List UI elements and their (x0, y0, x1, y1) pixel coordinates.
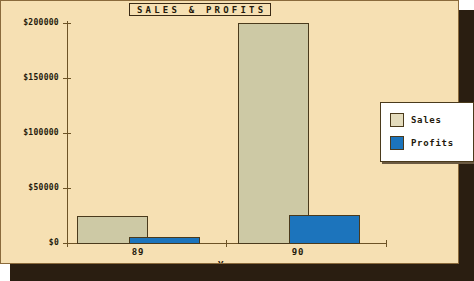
profits-swatch-icon (390, 136, 404, 150)
legend-item-profits: Profits (390, 136, 454, 150)
x-tick-label-90: 90 (278, 248, 318, 257)
sales-swatch-icon (390, 113, 404, 127)
y-tick-label-100000: $100000 (1, 129, 59, 137)
x-tick-end (386, 240, 387, 247)
bar-sales-90 (238, 23, 309, 244)
y-tick-label-0: $0 (1, 239, 59, 247)
y-tick-label-200000: $200000 (1, 19, 59, 27)
bar-profits-89 (129, 237, 200, 244)
y-tick-150000 (63, 78, 71, 79)
y-tick-50000 (63, 188, 71, 189)
legend-item-sales: Sales (390, 113, 442, 127)
y-tick-100000 (63, 133, 71, 134)
legend-label-sales: Sales (411, 115, 442, 125)
bar-profits-90 (289, 215, 360, 244)
legend-label-profits: Profits (411, 138, 454, 148)
x-axis-title: Year (1, 260, 459, 264)
y-tick-200000 (63, 23, 71, 24)
y-tick-label-50000: $50000 (1, 184, 59, 192)
y-tick-label-150000: $150000 (1, 74, 59, 82)
chart-screenshot: SALES & PROFITS $200000 $150000 $100000 … (0, 0, 474, 281)
chart-legend: Sales Profits (380, 102, 474, 162)
x-tick-label-89: 89 (118, 248, 158, 257)
x-tick-start (67, 240, 68, 247)
x-tick-mid (226, 240, 227, 247)
